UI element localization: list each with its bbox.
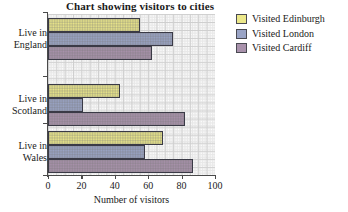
legend-swatch-icon — [236, 14, 247, 24]
y-tick-0 — [43, 12, 48, 13]
x-axis-title: Number of visitors — [48, 194, 215, 205]
x-tick-label-100: 100 — [203, 180, 227, 191]
x-tick-label-20: 20 — [69, 180, 93, 191]
y-tick-2 — [43, 123, 48, 124]
legend-swatch-icon — [236, 43, 247, 53]
category-label-line: Live in — [0, 27, 47, 39]
chart-legend: Visited EdinburghVisited LondonVisited C… — [236, 12, 325, 56]
legend-item-visited-edinburgh: Visited Edinburgh — [236, 12, 325, 27]
category-label-line: Live in — [0, 93, 47, 105]
x-tick-0 — [48, 175, 49, 179]
bar-live-in-scotland-visited-london — [48, 98, 83, 112]
bar-live-in-wales-visited-london — [48, 145, 145, 159]
category-label-live-in-scotland: Live inScotland — [0, 93, 47, 116]
category-label-live-in-wales: Live inWales — [0, 140, 47, 163]
x-tick-60 — [148, 175, 149, 179]
chart-title: Chart showing visitors to cities — [40, 0, 240, 12]
bar-live-in-scotland-visited-edinburgh — [48, 84, 120, 98]
bar-live-in-england-visited-cardiff — [48, 46, 152, 60]
x-tick-20 — [81, 175, 82, 179]
legend-label: Visited Cardiff — [252, 41, 311, 56]
bar-chart: Chart showing visitors to cities 0204060… — [0, 0, 348, 212]
x-tick-100 — [215, 175, 216, 179]
y-tick-3 — [43, 175, 48, 176]
x-tick-80 — [182, 175, 183, 179]
category-label-live-in-england: Live inEngland — [0, 27, 47, 50]
bar-live-in-wales-visited-cardiff — [48, 159, 193, 173]
legend-swatch-icon — [236, 29, 247, 39]
y-tick-1 — [43, 76, 48, 77]
legend-item-visited-cardiff: Visited Cardiff — [236, 41, 325, 56]
bar-live-in-england-visited-london — [48, 32, 173, 46]
legend-label: Visited Edinburgh — [252, 12, 325, 27]
category-label-line: Scotland — [0, 105, 47, 117]
category-label-line: England — [0, 39, 47, 51]
x-tick-40 — [115, 175, 116, 179]
x-tick-label-40: 40 — [103, 180, 127, 191]
legend-label: Visited London — [252, 27, 314, 42]
category-label-line: Wales — [0, 152, 47, 164]
x-tick-label-80: 80 — [170, 180, 194, 191]
bar-live-in-scotland-visited-cardiff — [48, 112, 185, 126]
category-label-line: Live in — [0, 140, 47, 152]
bar-live-in-england-visited-edinburgh — [48, 18, 140, 32]
x-tick-label-0: 0 — [36, 180, 60, 191]
bar-live-in-wales-visited-edinburgh — [48, 131, 163, 145]
x-axis-line — [47, 175, 216, 176]
legend-item-visited-london: Visited London — [236, 27, 325, 42]
x-tick-label-60: 60 — [136, 180, 160, 191]
